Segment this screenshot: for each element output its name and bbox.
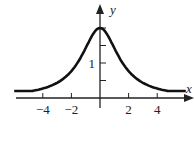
- x-tick-label: −4: [36, 102, 50, 117]
- x-ticks: −4−224: [36, 93, 161, 117]
- y-axis-label: y: [108, 2, 116, 17]
- x-tick-label: 4: [154, 102, 161, 117]
- plot: −4−224 1 x y: [0, 0, 194, 143]
- y-tick-label: 1: [89, 56, 96, 71]
- y-axis: [96, 4, 104, 108]
- x-tick-label: −2: [64, 102, 78, 117]
- y-arrow-icon: [96, 4, 104, 14]
- x-axis-label: x: [185, 81, 192, 96]
- x-tick-label: 2: [125, 102, 132, 117]
